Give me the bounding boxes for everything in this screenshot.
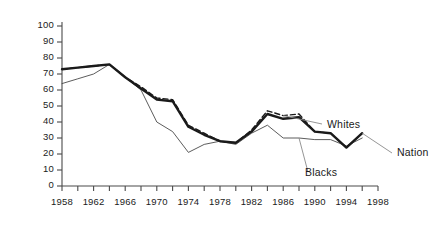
y-axis-tick-label: 70	[14, 67, 54, 78]
y-axis-tick-label: 100	[14, 19, 54, 30]
series-label-blacks: Blacks	[305, 166, 337, 178]
y-axis-tick-label: 10	[14, 163, 54, 174]
x-axis-ticks	[62, 186, 378, 191]
y-axis-tick-label: 60	[14, 83, 54, 94]
line-chart: 0102030405060708090100 19581962196619701…	[0, 0, 448, 237]
y-axis-ticks	[57, 26, 62, 186]
y-axis-tick-label: 80	[14, 51, 54, 62]
y-axis-tick-label: 20	[14, 147, 54, 158]
y-axis-tick-label: 0	[14, 179, 54, 190]
y-axis-tick-label: 50	[14, 99, 54, 110]
leader-line-nation	[362, 133, 392, 153]
y-axis-tick-label: 40	[14, 115, 54, 126]
series-line-nation	[62, 64, 362, 147]
x-axis-tick-label: 1998	[356, 196, 400, 207]
series-line-whites	[62, 64, 362, 147]
chart-series-group	[62, 64, 362, 152]
series-label-whites: Whites	[327, 118, 360, 130]
leader-line-whites	[283, 116, 322, 124]
series-label-nation: Nation	[397, 146, 429, 158]
y-axis-tick-label: 30	[14, 131, 54, 142]
y-axis-tick-label: 90	[14, 35, 54, 46]
